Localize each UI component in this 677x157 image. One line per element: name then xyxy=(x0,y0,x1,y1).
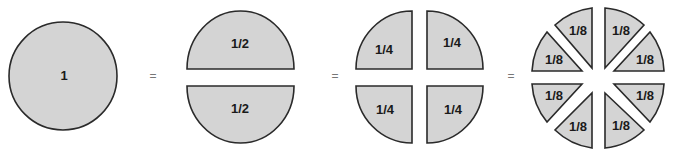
equals-sign-3: = xyxy=(507,69,514,83)
quarters: 1/4 1/4 1/4 1/4 xyxy=(356,11,483,143)
quarter-top-left-label: 1/4 xyxy=(375,42,394,57)
eighth-8-label: 1/8 xyxy=(545,52,563,67)
half-top-label: 1/2 xyxy=(231,36,249,51)
quarter-bottom-left-label: 1/4 xyxy=(376,102,395,117)
half-bottom-label: 1/2 xyxy=(231,101,249,116)
eighth-5-label: 1/8 xyxy=(612,118,630,133)
eighths: 1/8 1/8 1/8 1/8 1/8 1/8 1/8 1/8 xyxy=(532,8,664,148)
whole-label: 1 xyxy=(60,68,67,83)
equals-sign-1: = xyxy=(149,69,156,83)
halves: 1/2 1/2 xyxy=(187,11,294,143)
whole-circle: 1 xyxy=(9,22,117,130)
eighth-6-label: 1/8 xyxy=(569,119,587,134)
quarter-top-right-label: 1/4 xyxy=(443,35,462,50)
eighth-2-label: 1/8 xyxy=(612,23,630,38)
eighth-1-label: 1/8 xyxy=(569,23,587,38)
eighth-7-label: 1/8 xyxy=(545,88,563,103)
eighth-3-label: 1/8 xyxy=(636,52,654,67)
quarter-bottom-right-label: 1/4 xyxy=(444,102,463,117)
quarter-top-left xyxy=(356,11,412,69)
eighth-4-label: 1/8 xyxy=(636,88,654,103)
fraction-diagram: 1 = 1/2 1/2 = 1/4 1/4 1/4 1/4 = 1/8 1/8 … xyxy=(0,0,677,157)
equals-sign-2: = xyxy=(331,69,338,83)
